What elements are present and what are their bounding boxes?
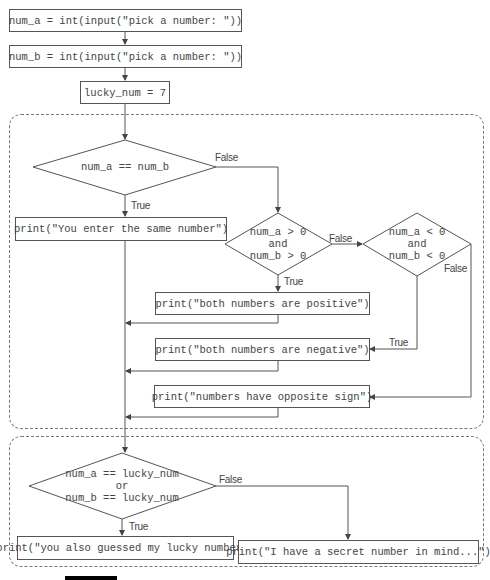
print-opposite-step: print("numbers have opposite sign") (154, 385, 370, 408)
print-negative-step: print("both numbers are negative") (155, 338, 370, 361)
true-label: True (129, 521, 148, 532)
redaction-bar (65, 576, 117, 580)
false-label: False (444, 263, 467, 274)
input-b-step: num_b = int(input("pick a number: ")) (9, 45, 242, 68)
print-lucky-step: print("you also guessed my lucky number"… (17, 536, 234, 560)
input-a-step: num_a = int(input("pick a number: ")) (9, 9, 242, 32)
decision-negative: num_a < 0 and num_b < 0 (377, 226, 457, 262)
print-positive-step: print("both numbers are positive") (155, 292, 370, 315)
decision-equal: num_a == num_b (75, 161, 175, 173)
false-label: False (329, 233, 352, 244)
decision-lucky: num_a == lucky_num or num_b == lucky_num (57, 468, 187, 504)
print-same-step: print("You enter the same number") (15, 217, 227, 241)
false-label: False (215, 152, 238, 163)
true-label: True (284, 276, 303, 287)
print-secret-step: print("I have a secret number in mind...… (238, 540, 479, 564)
true-label: True (389, 337, 408, 348)
false-label: False (219, 474, 242, 485)
decision-positive: num_a > 0 and num_b > 0 (238, 226, 318, 262)
lucky-num-step: lucky_num = 7 (80, 81, 170, 104)
true-label: True (131, 200, 150, 211)
